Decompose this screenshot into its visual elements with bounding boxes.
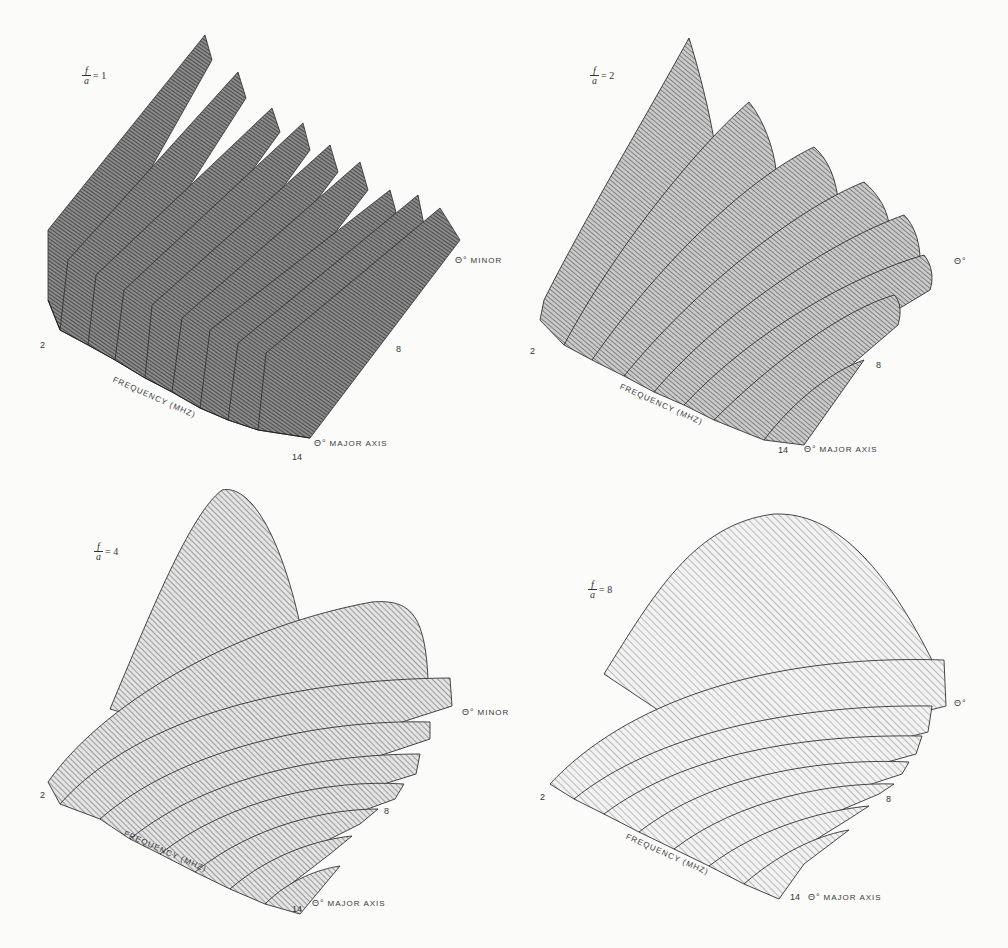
ratio-numerator: f: [97, 542, 100, 551]
minor-axis-label: θ°: [954, 698, 970, 708]
freq-tick-8: 8: [396, 344, 401, 354]
freq-tick-14: 14: [778, 445, 788, 455]
ratio-denominator: a: [96, 552, 101, 561]
surface-plot-f-a-1: fa = 1 2 8 14 Frequency (MHz) θ°Minor θ°…: [0, 0, 504, 474]
paper-page: fa = 1 2 8 14 Frequency (MHz) θ°Minor θ°…: [0, 0, 1008, 948]
minor-axis-label: θ°Minor: [455, 255, 502, 265]
surface-plot-f-a-8: fa = 8 2 8 14 Frequency (MHz) θ° θ°Major…: [504, 474, 1008, 948]
ratio-value: = 8: [599, 584, 612, 595]
ratio-denominator: a: [84, 76, 89, 85]
major-axis-label: θ°Major Axis: [312, 898, 386, 908]
ratio-denominator: a: [590, 590, 595, 599]
ratio-numerator: f: [591, 580, 594, 589]
ratio-value: = 2: [601, 70, 614, 81]
ratio-label: fa = 1: [82, 66, 106, 85]
minor-axis-label: θ°Minor: [462, 707, 509, 717]
major-axis-label: θ°Major Axis: [804, 444, 878, 454]
ratio-label: fa = 2: [590, 66, 614, 85]
major-axis-label: θ°Major Axis: [314, 438, 388, 448]
surface-plot-graphic: [0, 0, 504, 474]
ratio-denominator: a: [592, 76, 597, 85]
ratio-value: = 4: [105, 546, 118, 557]
ratio-value: = 1: [93, 70, 106, 81]
ratio-label: fa = 4: [94, 542, 118, 561]
surface-plot-graphic: [504, 0, 1008, 474]
surface-plot-graphic: [504, 474, 1008, 948]
surface-plot-graphic: [0, 474, 504, 948]
ratio-label: fa = 8: [588, 580, 612, 599]
minor-axis-label: θ°: [954, 256, 970, 266]
freq-tick-14: 14: [790, 892, 800, 902]
freq-tick-14: 14: [292, 452, 302, 462]
ratio-numerator: f: [85, 66, 88, 75]
freq-tick-8: 8: [876, 360, 881, 370]
freq-tick-14: 14: [292, 904, 302, 914]
freq-tick-2: 2: [530, 346, 535, 356]
surface-plot-f-a-2: fa = 2 2 8 14 Frequency (MHz) θ° θ°Major…: [504, 0, 1008, 474]
freq-tick-2: 2: [540, 792, 545, 802]
freq-tick-8: 8: [886, 794, 891, 804]
freq-tick-8: 8: [384, 806, 389, 816]
ratio-numerator: f: [593, 66, 596, 75]
freq-tick-2: 2: [40, 790, 45, 800]
surface-plot-f-a-4: fa = 4 2 8 14 Frequency (MHz) θ°Minor θ°…: [0, 474, 504, 948]
freq-tick-2: 2: [40, 340, 45, 350]
major-axis-label: θ°Major Axis: [808, 892, 882, 902]
